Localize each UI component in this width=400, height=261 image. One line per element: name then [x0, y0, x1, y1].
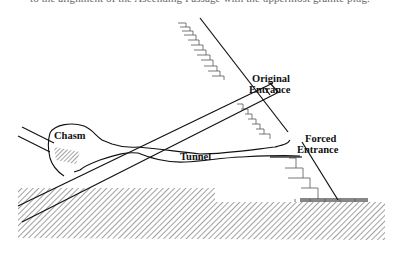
pyramid-outer-slope	[200, 18, 368, 201]
label-chasm: Chasm	[54, 130, 86, 141]
pyramid-cross-section-diagram: Original Entrance Forced Entrance Chasm …	[0, 0, 400, 261]
label-original-entrance-2: Entrance	[249, 84, 291, 95]
label-forced-entrance-2: Entrance	[297, 144, 339, 155]
masonry-steps-lower	[285, 158, 355, 202]
masonry-steps-upper	[178, 23, 224, 80]
masonry-steps-middle	[237, 104, 270, 139]
label-tunnel: Tunnel	[180, 151, 211, 162]
label-forced-entrance-1: Forced	[305, 133, 336, 144]
label-original-entrance-1: Original	[252, 73, 290, 84]
